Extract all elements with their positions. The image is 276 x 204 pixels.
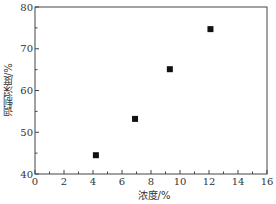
x-tick-label: 10 [174, 176, 187, 187]
data-point-marker [93, 152, 99, 158]
data-point-marker [132, 116, 138, 122]
y-tick-label: 80 [20, 2, 33, 13]
x-tick-label: 6 [119, 176, 125, 187]
scatter-chart: 0246810121416 4050607080 [0, 0, 276, 204]
data-point-marker [207, 26, 213, 32]
x-tick-label: 4 [90, 176, 96, 187]
x-tick-label: 12 [203, 176, 216, 187]
y-tick-label: 70 [20, 43, 33, 54]
data-point-marker [167, 66, 173, 72]
x-tick-label: 16 [261, 176, 274, 187]
x-tick-label: 2 [61, 176, 67, 187]
plot-frame [35, 7, 267, 174]
y-axis-ticks: 4050607080 [20, 2, 39, 180]
x-axis-label: 浓度/% [0, 187, 276, 202]
x-tick-label: 14 [232, 176, 245, 187]
x-axis-ticks: 0246810121416 [32, 170, 274, 187]
x-tick-label: 8 [148, 176, 154, 187]
plot-border [35, 7, 267, 174]
data-points [93, 26, 214, 158]
y-tick-label: 40 [20, 169, 33, 180]
y-axis-label: 调制深度/% [2, 50, 16, 130]
y-tick-label: 60 [20, 85, 33, 96]
y-tick-label: 50 [20, 127, 33, 138]
